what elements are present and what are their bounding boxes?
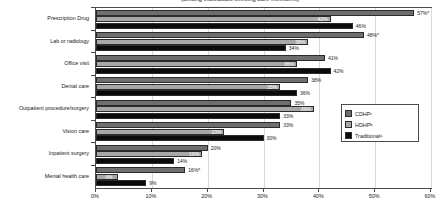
bar-cdhp-6 [96, 145, 208, 151]
x-tick-label: 30% [257, 193, 268, 200]
category-axis: Prescription DrugLab or radiologyOffice … [0, 7, 93, 189]
category-label: Outpatient procedure/surgery [19, 105, 89, 111]
bar-value-label: 16%* [188, 167, 200, 173]
x-tick [263, 189, 264, 192]
x-tick-label: 10% [145, 193, 156, 200]
chart-legend: CDHPcHDHPbTraditionala [341, 104, 419, 142]
bar-value-label: 33% [283, 122, 293, 128]
legend-label: CDHP [355, 111, 370, 117]
bar-value-label: 23% [211, 129, 221, 135]
bar-value-label: 48%* [367, 32, 379, 38]
bar-traditional-5 [96, 135, 264, 141]
legend-superscript: c [370, 111, 372, 116]
bar-traditional-3 [96, 90, 297, 96]
category-label: Lab or radiology [50, 38, 89, 44]
x-tick [374, 189, 375, 192]
bar-cdhp-1 [96, 32, 364, 38]
x-tick-label: 40% [313, 193, 324, 200]
chart-container: (among individuals seeking care members)… [0, 0, 442, 218]
bar-traditional-6 [96, 158, 174, 164]
bar-hdhp-5 [96, 129, 224, 135]
legend-label: Traditional [355, 133, 380, 139]
gridline [431, 8, 432, 188]
bar-value-label: 38% [311, 77, 321, 83]
category-label: Mental health care [45, 173, 89, 179]
bar-value-label: 9% [149, 180, 156, 186]
category-label: Prescription Drug [47, 15, 89, 21]
bar-value-label: 42% [334, 68, 344, 74]
bar-value-label: 35% [294, 100, 304, 106]
category-tick [91, 165, 95, 166]
category-tick [91, 75, 95, 76]
x-tick [151, 189, 152, 192]
bar-value-label: 34% [289, 45, 299, 51]
bar-value-label: 39% [301, 106, 311, 112]
category-label: Dental care [61, 83, 89, 89]
bar-value-label: 36% [284, 61, 294, 67]
bar-value-label: 41% [328, 55, 338, 61]
legend-item-cdhp[interactable]: CDHPc [345, 108, 418, 119]
legend-swatch-icon [345, 121, 352, 128]
bar-value-label: 42% [318, 16, 328, 22]
category-tick [91, 30, 95, 31]
bar-value-label: 30% [267, 135, 277, 141]
bar-hdhp-4 [96, 106, 314, 112]
category-tick [91, 52, 95, 53]
legend-item-traditional[interactable]: Traditionala [345, 130, 418, 141]
x-tick-label: 60% [425, 193, 436, 200]
x-tick [95, 189, 96, 192]
legend-label: HDHP [355, 122, 370, 128]
x-tick [430, 189, 431, 192]
legend-superscript: a [380, 133, 382, 138]
bar-traditional-2 [96, 68, 331, 74]
bar-value-label: 46% [356, 23, 366, 29]
category-tick [91, 120, 95, 121]
bar-traditional-7 [96, 180, 146, 186]
bar-value-label: 14% [177, 158, 187, 164]
bar-cdhp-4 [96, 100, 291, 106]
bar-hdhp-2 [96, 61, 297, 67]
bar-value-label: 57%* [417, 10, 429, 16]
bar-value-label: 20% [211, 145, 221, 151]
x-tick-label: 0% [91, 193, 99, 200]
legend-swatch-icon [345, 132, 352, 139]
bar-cdhp-0 [96, 10, 414, 16]
bar-cdhp-2 [96, 55, 325, 61]
bar-value-label: 38% [295, 39, 305, 45]
bar-value-label: 4% [105, 174, 112, 180]
bar-value-label: 33% [267, 84, 277, 90]
chart-title: (among individuals seeking care members) [140, 0, 340, 2]
bar-value-label: 36% [300, 90, 310, 96]
category-label: Vision care [62, 128, 89, 134]
x-tick [318, 189, 319, 192]
category-label: Office visit [64, 60, 89, 66]
bar-traditional-0 [96, 23, 353, 29]
bar-cdhp-3 [96, 77, 308, 83]
bar-cdhp-7 [96, 167, 185, 173]
bar-value-label: 19% [189, 151, 199, 157]
x-tick [207, 189, 208, 192]
legend-swatch-icon [345, 110, 352, 117]
bar-hdhp-1 [96, 39, 308, 45]
category-tick [91, 7, 95, 8]
bar-value-label: 33% [283, 113, 293, 119]
value-axis: 0%10%20%30%40%50%60% [95, 189, 432, 207]
bars-area: 57%*42%46%48%*38%34%41%36%42%38%33%36%35… [96, 8, 431, 188]
category-tick [91, 142, 95, 143]
bar-hdhp-6 [96, 151, 202, 157]
bar-hdhp-0 [96, 16, 331, 22]
bar-cdhp-5 [96, 122, 280, 128]
legend-superscript: b [370, 122, 372, 127]
bar-traditional-4 [96, 113, 280, 119]
x-tick-label: 50% [369, 193, 380, 200]
category-tick [91, 97, 95, 98]
bar-hdhp-3 [96, 84, 280, 90]
bar-traditional-1 [96, 45, 286, 51]
legend-item-hdhp[interactable]: HDHPb [345, 119, 418, 130]
category-label: Inpatient surgery [49, 150, 89, 156]
x-tick-label: 20% [201, 193, 212, 200]
